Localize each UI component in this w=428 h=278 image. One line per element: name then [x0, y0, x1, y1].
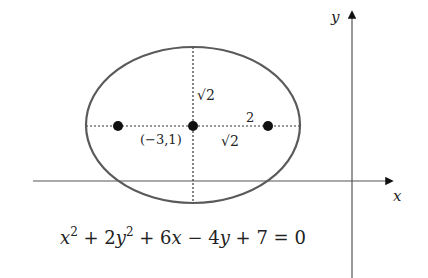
- x-axis-label: x: [393, 187, 402, 205]
- eq-x: x: [60, 227, 70, 248]
- eq-exp1: 2: [70, 225, 78, 239]
- eq-plus6: + 6: [134, 227, 172, 248]
- ellipse-diagram: x y √2 2 √2 (−3,1) x2 + 2y2 + 6x − 4y + …: [0, 0, 428, 278]
- focal-distance-label: √2: [221, 133, 239, 149]
- center-point: [188, 121, 198, 131]
- eq-minus4: − 4: [182, 227, 220, 248]
- semi-minor-label: √2: [197, 87, 215, 103]
- y-axis-label: y: [330, 8, 340, 26]
- eq-exp2: 2: [126, 225, 134, 239]
- eq-x2: x: [172, 227, 182, 248]
- eq-plus1: + 2: [78, 227, 116, 248]
- right-focus-point: [263, 121, 273, 131]
- eq-rest: + 7 = 0: [230, 227, 306, 248]
- semi-major-label: 2: [246, 110, 254, 125]
- center-coordinate-label: (−3,1): [140, 132, 182, 147]
- left-focus-point: [113, 121, 123, 131]
- ellipse-equation: x2 + 2y2 + 6x − 4y + 7 = 0: [60, 225, 306, 248]
